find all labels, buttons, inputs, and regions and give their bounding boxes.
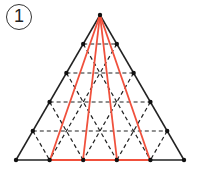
grid-point (182, 158, 186, 162)
grid-point (98, 13, 102, 17)
grid-point (47, 158, 51, 162)
grid-point (148, 158, 152, 162)
grid-points (14, 13, 186, 162)
triangle-grid-diagram (0, 0, 210, 176)
grid-point (14, 158, 18, 162)
highlight-apex-line (100, 15, 117, 160)
grid-point (115, 158, 119, 162)
dashed-diagonal-line (33, 131, 50, 160)
grid-point (81, 42, 85, 46)
grid-point (131, 71, 135, 75)
grid-point (148, 100, 152, 104)
highlight-apex-line (83, 15, 100, 160)
dashed-diagonal-line (150, 131, 167, 160)
grid-point (115, 42, 119, 46)
grid-point (64, 71, 68, 75)
triangle-outline (16, 15, 184, 160)
dashed-grid-lines (33, 44, 167, 160)
grid-point (31, 129, 35, 133)
grid-point (165, 129, 169, 133)
grid-point (81, 158, 85, 162)
grid-point (47, 100, 51, 104)
highlighted-triangle-lines (50, 15, 150, 160)
